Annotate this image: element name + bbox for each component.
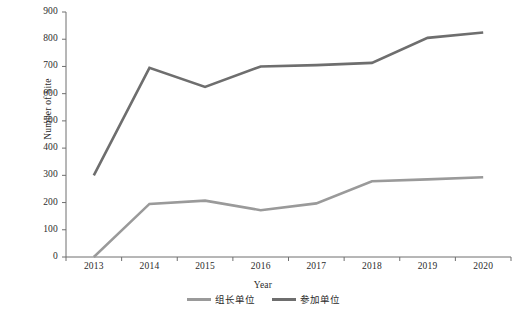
legend-label: 参加单位 [300, 295, 340, 305]
y-axis-title: Number of Site [43, 49, 53, 169]
legend-line-swatch [187, 298, 211, 301]
y-axis-tick-label: 800 [24, 34, 58, 44]
y-axis-tick-label: 300 [24, 170, 58, 180]
x-axis-ticks [66, 257, 511, 261]
x-axis-tick-label: 2019 [398, 262, 458, 272]
x-axis-tick-label: 2016 [231, 262, 291, 272]
data-line-zuzhang-danwei [94, 177, 483, 257]
legend-entry: 参加单位 [272, 295, 340, 305]
legend-line-swatch [272, 298, 296, 301]
x-axis-tick-label: 2013 [64, 262, 124, 272]
x-axis-tick-label: 2020 [453, 262, 513, 272]
x-axis-tick-label: 2017 [286, 262, 346, 272]
y-axis-tick-label: 200 [24, 198, 58, 208]
legend-label: 组长单位 [215, 295, 255, 305]
x-axis-title: Year [0, 280, 526, 290]
x-axis-tick-label: 2018 [342, 262, 402, 272]
chart-legend: 组长单位参加单位 [0, 295, 526, 305]
chart-figure: 0100200300400500600700800900 20132014201… [0, 0, 526, 316]
legend-entry: 组长单位 [187, 295, 255, 305]
y-axis-ticks [62, 12, 66, 257]
x-axis-tick-label: 2015 [175, 262, 235, 272]
y-axis-tick-label: 0 [24, 252, 58, 262]
y-axis-tick-label: 900 [24, 7, 58, 17]
data-line-canjia-danwei [94, 32, 483, 175]
x-axis-tick-label: 2014 [119, 262, 179, 272]
x-axis-tick-labels: 20132014201520162017201820192020 [66, 262, 511, 276]
y-axis-tick-label: 100 [24, 225, 58, 235]
